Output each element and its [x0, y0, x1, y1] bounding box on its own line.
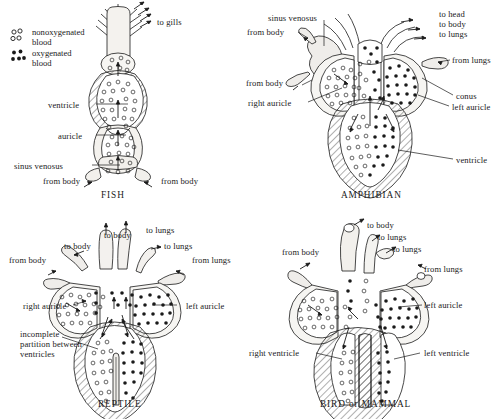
label-incomplete-partition: incomplete partition between ventricles — [20, 329, 82, 360]
label-to-head: to head — [439, 9, 465, 19]
label-from-body-right: from body — [161, 176, 198, 186]
diagram-panel-reptile: to body to body to lungs to lungs from b… — [0, 209, 247, 419]
caption-amphibian: AMPHIBIAN — [341, 190, 402, 200]
label-from-body: from body — [282, 247, 319, 257]
label-from-body-lower: from body — [246, 78, 283, 88]
label-sinus-venosus: sinus venosus — [14, 161, 63, 171]
caption-fish: FISH — [101, 190, 125, 200]
label-to-lungs-mid: to lungs — [146, 225, 174, 235]
label-from-body-left: from body — [43, 176, 80, 186]
label-to-lungs: to lungs — [439, 29, 467, 39]
label-right-ventricle: right ventricle — [249, 348, 299, 358]
bird-mammal-heart-drawing — [246, 209, 493, 419]
reptile-heart-drawing — [0, 209, 247, 419]
label-from-lungs: from lungs — [424, 264, 463, 274]
label-left-auricle: left auricle — [452, 102, 490, 112]
caption-bird-mammal: BIRD or MAMMAL — [320, 399, 411, 409]
caption-reptile: REPTILE — [98, 399, 141, 409]
diagram-panel-fish: to gills ventricle auricle sinus venosus… — [0, 0, 247, 210]
to-gills-arrows — [134, 2, 151, 27]
label-to-gills: to gills — [157, 17, 182, 27]
label-to-body-mid: to body — [104, 230, 131, 240]
label-to-lungs-right: to lungs — [164, 241, 192, 251]
label-left-ventricle: left ventricle — [424, 348, 469, 358]
label-conus: conus — [456, 91, 477, 101]
label-right-auricle: right auricle — [23, 301, 66, 311]
label-to-lungs-lower: to lungs — [393, 244, 421, 254]
label-ventricle: ventricle — [48, 100, 79, 110]
label-sinus-venosus: sinus venosus — [268, 13, 317, 23]
label-left-auricle: left auricle — [424, 300, 462, 310]
label-to-body: to body — [367, 220, 394, 230]
label-from-lungs: from lungs — [192, 255, 231, 265]
label-from-body-upper: from body — [247, 27, 284, 37]
label-to-body: to body — [439, 19, 466, 29]
label-from-body: from body — [9, 255, 46, 265]
label-ventricle: ventricle — [456, 155, 487, 165]
label-to-body-left: to body — [64, 241, 91, 251]
diagram-panel-bird-mammal: to body to lungs to lungs from body from… — [246, 209, 493, 419]
fish-heart-drawing — [0, 0, 247, 210]
label-from-lungs: from lungs — [452, 55, 491, 65]
label-to-lungs-upper: to lungs — [378, 232, 406, 242]
diagram-panel-amphibian: sinus venosus from body to head to body … — [246, 0, 493, 210]
label-right-auricle: right auricle — [248, 98, 291, 108]
label-auricle: auricle — [58, 131, 82, 141]
label-left-auricle: left auricle — [186, 301, 224, 311]
